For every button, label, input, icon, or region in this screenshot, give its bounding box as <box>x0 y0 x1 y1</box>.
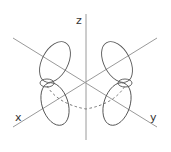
lobe-upper-right <box>95 36 139 87</box>
lobe-upper-left <box>33 36 77 87</box>
z-axis-label: z <box>76 14 82 27</box>
lobe-lower-left <box>36 79 74 129</box>
x-axis-label: x <box>15 111 22 124</box>
y-axis-label: y <box>150 111 157 124</box>
orbital-diagram: z x y <box>0 0 171 152</box>
lobe-lower-right <box>98 79 136 129</box>
